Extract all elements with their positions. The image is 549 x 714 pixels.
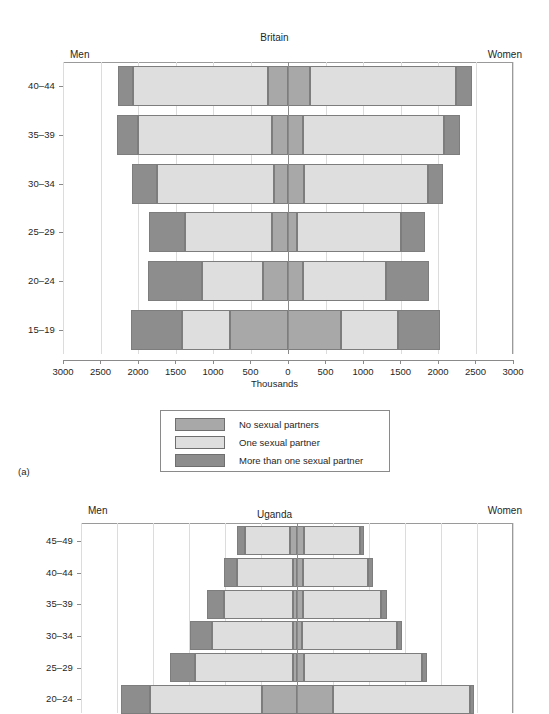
x-tick-label: 2500 xyxy=(90,366,111,377)
bar-segment-women-one xyxy=(333,685,470,714)
bar-segment-women-one xyxy=(310,66,456,106)
y-axis-label: 35–39 xyxy=(46,598,73,609)
y-tick xyxy=(77,541,81,542)
x-tick-label: 1000 xyxy=(202,366,223,377)
y-axis-label: 35–39 xyxy=(28,129,55,140)
legend-swatch-more xyxy=(175,454,225,467)
x-tick-label: 3000 xyxy=(502,366,523,377)
bar-segment-women-one xyxy=(304,164,429,204)
x-tick xyxy=(325,360,326,364)
legend-label: More than one sexual partner xyxy=(239,454,363,467)
bar-segment-men-one xyxy=(202,261,263,301)
bar-segment-men-one xyxy=(138,115,272,155)
plot-area-uganda xyxy=(81,523,513,713)
bar-segment-women-one xyxy=(303,261,386,301)
bar-segment-women-none xyxy=(297,685,333,714)
y-axis-label: 20–24 xyxy=(46,693,73,704)
bar-segment-men-more xyxy=(118,66,133,106)
men-side-label-uganda: Men xyxy=(88,505,107,516)
chart-panel-uganda: Uganda Men Women 45–4940–4435–3930–3425–… xyxy=(0,496,549,713)
bar-segment-women-one xyxy=(341,310,398,350)
bar-segment-men-none xyxy=(274,164,288,204)
bar-segment-women-none xyxy=(297,653,304,682)
y-axis-label: 15–19 xyxy=(28,324,55,335)
bar-segment-women-more xyxy=(368,558,373,587)
bar-segment-women-none xyxy=(288,115,303,155)
y-axis-label: 25–29 xyxy=(46,662,73,673)
y-tick xyxy=(77,604,81,605)
bar-segment-men-none xyxy=(262,685,297,714)
bar-segment-men-more xyxy=(170,653,196,682)
bar-segment-men-one xyxy=(133,66,268,106)
chart-title-britain: Britain xyxy=(0,32,549,43)
x-tick-label: 1000 xyxy=(352,366,373,377)
bar-segment-women-one xyxy=(303,558,368,587)
y-tick xyxy=(59,232,63,233)
y-axis-label: 45–49 xyxy=(46,535,73,546)
x-tick xyxy=(513,360,514,364)
x-tick xyxy=(400,360,401,364)
bar-segment-men-one xyxy=(224,590,293,619)
bar-segment-women-more xyxy=(428,164,442,204)
bar-segment-women-none xyxy=(288,310,341,350)
bar-segment-men-one xyxy=(237,558,293,587)
bar-segment-women-more xyxy=(381,590,387,619)
y-tick xyxy=(59,86,63,87)
center-axis-line xyxy=(288,62,289,354)
x-tick-label: 2500 xyxy=(465,366,486,377)
x-tick xyxy=(175,360,176,364)
women-side-label-britain: Women xyxy=(488,49,522,60)
x-tick xyxy=(63,360,64,364)
bar-segment-women-more xyxy=(456,66,472,106)
bar-segment-men-more xyxy=(190,621,212,650)
x-tick xyxy=(438,360,439,364)
legend-swatch-one xyxy=(175,436,225,449)
y-tick xyxy=(59,281,63,282)
legend-item: More than one sexual partner xyxy=(161,452,389,468)
x-tick-label: 0 xyxy=(285,366,290,377)
y-axis-label: 30–34 xyxy=(46,630,73,641)
y-axis-label: 40–44 xyxy=(28,80,55,91)
bar-segment-men-none xyxy=(230,310,289,350)
bar-segment-women-one xyxy=(304,526,360,555)
legend-label: No sexual partners xyxy=(239,418,319,431)
bar-segment-men-none xyxy=(272,212,288,252)
x-axis-title-britain: Thousands xyxy=(0,378,549,389)
bar-segment-women-one xyxy=(303,115,444,155)
bar-segment-women-more xyxy=(397,621,402,650)
x-tick xyxy=(213,360,214,364)
bar-segment-men-none xyxy=(263,261,289,301)
bar-segment-women-more xyxy=(401,212,425,252)
x-tick-label: 2000 xyxy=(127,366,148,377)
y-tick xyxy=(77,573,81,574)
plot-area-britain xyxy=(63,62,513,354)
x-tick xyxy=(138,360,139,364)
legend-item: No sexual partners xyxy=(161,416,389,432)
x-tick-label: 500 xyxy=(318,366,334,377)
bar-segment-men-one xyxy=(195,653,292,682)
legend-label: One sexual partner xyxy=(239,436,320,449)
bar-segment-men-none xyxy=(272,115,289,155)
bar-segment-men-one xyxy=(212,621,293,650)
bar-segment-women-none xyxy=(288,164,304,204)
legend-swatch-none xyxy=(175,418,225,431)
bar-segment-men-more xyxy=(207,590,224,619)
bar-segment-men-one xyxy=(185,212,272,252)
x-tick xyxy=(250,360,251,364)
x-tick xyxy=(363,360,364,364)
gridline xyxy=(513,62,514,354)
x-tick-label: 3000 xyxy=(52,366,73,377)
men-side-label-britain: Men xyxy=(70,49,89,60)
bar-segment-women-one xyxy=(302,621,397,650)
gridline xyxy=(513,523,514,713)
bar-segment-women-none xyxy=(288,212,297,252)
bar-segment-men-more xyxy=(224,558,237,587)
bar-segment-men-more xyxy=(149,212,186,252)
y-axis-label: 25–29 xyxy=(28,226,55,237)
bar-segment-men-one xyxy=(150,685,262,714)
chart-title-uganda: Uganda xyxy=(0,509,549,520)
figure-letter-a: (a) xyxy=(18,466,30,477)
y-axis-label: 20–24 xyxy=(28,275,55,286)
y-tick xyxy=(77,636,81,637)
